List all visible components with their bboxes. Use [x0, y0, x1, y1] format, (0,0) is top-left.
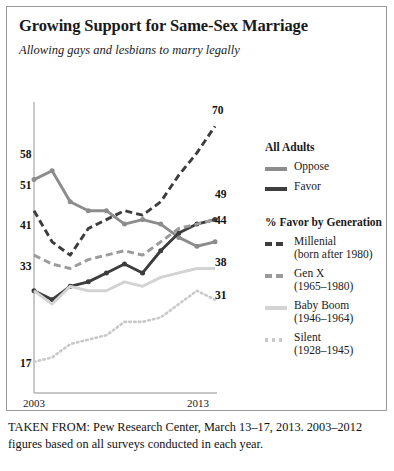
series-silent — [34, 291, 215, 362]
legend-sublabel-gen-x: (1965–1980) — [294, 280, 353, 292]
data-label-17: 17 — [20, 357, 32, 369]
legend-sublabel-millenial: (born after 1980) — [294, 248, 373, 260]
legend-item-baby-boom[interactable]: Baby Boom(1946–1964) — [265, 299, 385, 325]
legend-item-millenial[interactable]: Millenial(born after 1980) — [265, 235, 385, 261]
series-favor — [32, 217, 218, 302]
data-label-51: 51 — [20, 179, 32, 191]
legend-label-baby-boom: Baby Boom — [294, 299, 349, 311]
legend-label-gen-x: Gen X — [294, 267, 324, 279]
data-label-49: 49 — [215, 188, 227, 200]
legend-swatch-millenial-icon — [265, 238, 287, 249]
legend-label-silent: Silent — [294, 331, 321, 343]
chart-legend: All Adults Oppose Favor % Favor by Gener… — [265, 141, 385, 363]
series-millenial — [34, 126, 215, 255]
legend-item-oppose[interactable]: Oppose — [265, 160, 385, 174]
legend-spacer — [265, 200, 385, 216]
series-baby-boom — [34, 269, 215, 305]
legend-swatch-gen-x-icon — [265, 270, 287, 281]
series-gen-x — [34, 220, 215, 269]
chart-frame: Growing Support for Same-Sex Marriage Al… — [6, 6, 387, 411]
legend-heading-all-adults: All Adults — [265, 141, 385, 153]
legend-heading-by-generation: % Favor by Generation — [265, 216, 385, 228]
legend-item-silent[interactable]: Silent(1928–1945) — [265, 331, 385, 357]
legend-label-millenial: Millenial — [294, 235, 336, 247]
data-label-38: 38 — [215, 256, 227, 268]
data-label-44: 44 — [215, 214, 227, 226]
data-label-41: 41 — [20, 219, 32, 231]
legend-swatch-favor-icon — [265, 183, 287, 194]
data-label-58: 58 — [20, 148, 32, 160]
data-label-70: 70 — [212, 104, 224, 116]
legend-item-favor[interactable]: Favor — [265, 180, 385, 194]
legend-sublabel-silent: (1928–1945) — [294, 344, 353, 356]
series-oppose — [32, 168, 218, 249]
data-label-31: 31 — [215, 289, 227, 301]
legend-item-gen-x[interactable]: Gen X(1965–1980) — [265, 267, 385, 293]
legend-sublabel-baby-boom: (1946–1964) — [294, 312, 353, 324]
legend-label-oppose: Oppose — [294, 160, 329, 173]
x-axis-tick-2003: 2003 — [23, 397, 45, 409]
legend-label-favor: Favor — [294, 180, 321, 193]
legend-swatch-silent-icon — [265, 334, 287, 345]
page-root: Growing Support for Same-Sex Marriage Al… — [0, 0, 394, 471]
legend-swatch-oppose-icon — [265, 163, 287, 174]
x-axis-tick-2013: 2013 — [187, 397, 209, 409]
data-label-33: 33 — [20, 260, 32, 272]
source-note: TAKEN FROM: Pew Research Center, March 1… — [8, 419, 386, 452]
legend-swatch-baby-boom-icon — [265, 302, 287, 313]
